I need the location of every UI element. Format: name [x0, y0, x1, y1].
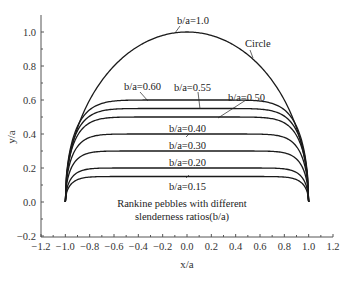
svg-text:−1.0: −1.0: [56, 241, 75, 252]
label-b-1.0: b/a=1.0: [177, 15, 209, 26]
svg-text:0.2: 0.2: [23, 163, 36, 174]
label-circle: Circle: [245, 38, 271, 49]
label-b-0.60: b/a=0.60: [124, 81, 161, 92]
svg-text:1.0: 1.0: [23, 27, 36, 38]
svg-text:0.4: 0.4: [229, 241, 243, 252]
svg-text:1.0: 1.0: [302, 241, 315, 252]
svg-text:0.8: 0.8: [23, 61, 36, 72]
svg-text:−0.6: −0.6: [104, 241, 123, 252]
y-ticks: −0.20.00.20.40.60.81.0: [17, 27, 44, 242]
svg-text:−0.8: −0.8: [80, 241, 99, 252]
caption-line-1: Rankine pebbles with different: [117, 198, 247, 209]
svg-text:−0.4: −0.4: [129, 241, 149, 252]
svg-text:−0.2: −0.2: [17, 231, 36, 242]
label-b-0.30: b/a=0.30: [169, 140, 206, 151]
label-b-0.15: b/a=0.15: [169, 181, 206, 192]
y-axis-label: y/a: [5, 130, 17, 144]
svg-text:0.0: 0.0: [23, 197, 36, 208]
svg-text:0.2: 0.2: [205, 241, 218, 252]
svg-text:−1.2: −1.2: [31, 241, 50, 252]
svg-text:0.0: 0.0: [180, 241, 193, 252]
caption-line-2: slenderness ratios(b/a): [135, 211, 230, 223]
svg-text:0.6: 0.6: [253, 241, 266, 252]
label-b-0.50: b/a=0.50: [228, 92, 265, 103]
curves: [65, 32, 308, 202]
svg-text:1.2: 1.2: [326, 241, 339, 252]
annotations: b/a=1.0 Circle b/a=0.60 b/a=0.55 b/a=0.5…: [117, 15, 271, 223]
label-b-0.40: b/a=0.40: [169, 123, 206, 134]
x-axis-label: x/a: [180, 258, 194, 270]
label-b-0.20: b/a=0.20: [169, 157, 206, 168]
label-b-0.55: b/a=0.55: [174, 82, 211, 93]
svg-text:0.6: 0.6: [23, 95, 36, 106]
svg-text:0.4: 0.4: [23, 129, 37, 140]
svg-text:−0.2: −0.2: [153, 241, 172, 252]
svg-text:0.8: 0.8: [278, 241, 291, 252]
chart: −1.2−1.0−0.8−0.6−0.4−0.20.00.20.40.60.81…: [0, 0, 350, 283]
